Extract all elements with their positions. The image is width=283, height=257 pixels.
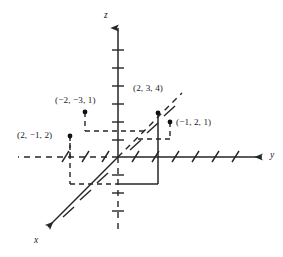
z-axis-label: z (104, 11, 108, 21)
point-marker-neg2-neg3-1 (83, 110, 88, 115)
axes-svg (0, 0, 283, 257)
x-axis-negative (118, 93, 182, 157)
point-label-2-neg1-2: (2, −1, 2) (17, 131, 52, 140)
point-marker-neg1-2-1 (168, 120, 173, 125)
point-label-2-3-4: (2, 3, 4) (133, 84, 163, 93)
point-marker-2-neg1-2 (68, 134, 73, 139)
coordinate-axes-figure: z y x (−2, −3, 1) (2, 3, 4) (−1, 2, 1) (… (0, 0, 283, 257)
point-label-neg2-neg3-1: (−2, −3, 1) (55, 96, 96, 105)
x-axis-label: x (34, 236, 38, 246)
x-axis-positive (48, 157, 118, 227)
point-label-neg1-2-1: (−1, 2, 1) (176, 118, 211, 127)
x-axis-ticks-negative (130, 106, 175, 150)
point-2-neg1-2-projection (70, 136, 118, 184)
y-axis-label: y (270, 151, 274, 161)
x-axis-ticks-positive (63, 173, 108, 217)
point-marker-2-3-4 (156, 111, 161, 116)
